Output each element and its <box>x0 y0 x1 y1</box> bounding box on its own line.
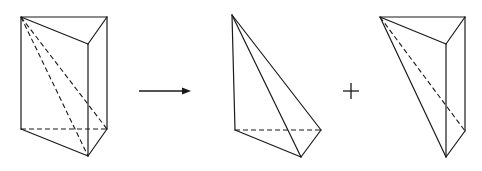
tetra-bottom-left-edge <box>235 130 301 157</box>
tetra-left-edge <box>232 15 235 130</box>
solid-bottom-right-edge <box>446 131 465 157</box>
remaining-solid <box>380 17 465 157</box>
tetra-right-edge <box>232 15 321 130</box>
tetrahedron <box>232 15 321 157</box>
tetra-front-edge <box>232 15 301 157</box>
arrow <box>139 88 191 95</box>
solid-left-diagonal-edge <box>380 17 446 157</box>
prism-bottom-left-edge <box>21 129 88 156</box>
prism-top-right-edge <box>88 17 107 44</box>
prism-bottom-right-edge <box>88 129 107 156</box>
plus-sign <box>343 83 359 99</box>
prism-hidden-diagonal-to-front <box>21 17 88 156</box>
triangular-prism <box>21 17 107 156</box>
prism-decomposition-diagram <box>0 0 482 171</box>
arrow-head <box>182 88 191 95</box>
solid-top-right-edge <box>446 17 465 44</box>
tetra-bottom-right-edge <box>301 130 321 157</box>
